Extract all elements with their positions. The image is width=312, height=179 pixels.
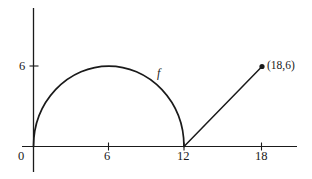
x-axis-tick-label-18: 18 xyxy=(255,150,268,163)
semicircle-curve xyxy=(34,66,185,146)
line-segment xyxy=(184,67,262,147)
endpoint-dot xyxy=(259,64,264,69)
endpoint-coordinate-label: (18,6) xyxy=(267,60,295,72)
x-axis-tick-label-12: 12 xyxy=(177,150,190,163)
x-axis-tick-label-6: 6 xyxy=(104,150,110,163)
curve-label-f: f xyxy=(157,67,160,79)
x-axis-tick-label-0: 0 xyxy=(18,150,24,163)
graph-figure: 0 6 12 18 6 f (18,6) xyxy=(0,0,312,179)
y-axis-tick-label-6: 6 xyxy=(19,60,25,73)
